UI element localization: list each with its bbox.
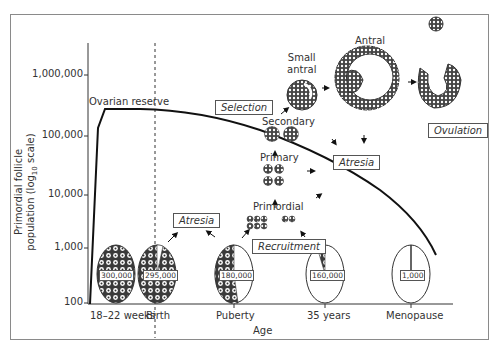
ovary-count-1: 300,000 bbox=[99, 270, 134, 281]
small-antral-follicle bbox=[287, 80, 317, 110]
primary-label: Primary bbox=[260, 152, 299, 163]
selection-box: Selection bbox=[215, 100, 273, 115]
x-tick-birth: Birth bbox=[146, 310, 170, 321]
primordial-label: Primordial bbox=[253, 201, 304, 212]
y-tick-1000000: 1,000,000 bbox=[13, 68, 83, 79]
ovary-count-5: 1,000 bbox=[400, 270, 425, 281]
x-tick-35-years: 35 years bbox=[307, 310, 350, 321]
y-axis bbox=[84, 43, 88, 304]
ovarian-reserve-label: Ovarian reserve bbox=[89, 96, 169, 107]
small-antral-label: Small antral bbox=[287, 52, 316, 76]
x-tick-menopause: Menopause bbox=[386, 310, 443, 321]
x-axis-title: Age bbox=[253, 325, 272, 336]
ovulating-follicle bbox=[418, 17, 461, 108]
x-tick-puberty: Puberty bbox=[216, 310, 255, 321]
primary-follicles bbox=[264, 165, 284, 186]
ovary-count-4: 160,000 bbox=[310, 270, 345, 281]
recruitment-box: Recruitment bbox=[252, 239, 326, 254]
atresia-box-left: Atresia bbox=[173, 213, 220, 228]
primordial-follicles bbox=[247, 216, 295, 229]
y-axis-title: Primordial follicle population (log10 sc… bbox=[13, 107, 41, 277]
diagram-canvas bbox=[0, 0, 499, 362]
atresia-box-right: Atresia bbox=[333, 155, 380, 170]
small-antral-label-1: Small bbox=[287, 52, 316, 64]
antral-label: Antral bbox=[355, 35, 385, 46]
y-axis-title-part: population (log bbox=[25, 175, 36, 251]
small-antral-label-2: antral bbox=[287, 64, 316, 76]
secondary-follicles bbox=[265, 127, 299, 142]
ovary-count-2: 295,000 bbox=[143, 270, 178, 281]
y-axis-title-sub: 10 bbox=[31, 166, 39, 175]
antral-follicle bbox=[335, 46, 399, 110]
x-axis bbox=[88, 304, 453, 308]
y-axis-title-line1: Primordial follicle bbox=[13, 107, 25, 277]
ovary-count-3: 180,000 bbox=[219, 270, 254, 281]
y-axis-title-line2: population (log10 scale) bbox=[25, 107, 41, 277]
y-axis-title-end: scale) bbox=[25, 133, 36, 166]
ovulation-box: Ovulation bbox=[428, 123, 488, 138]
secondary-label: Secondary bbox=[262, 116, 315, 127]
y-tick-100: 100 bbox=[13, 296, 83, 307]
